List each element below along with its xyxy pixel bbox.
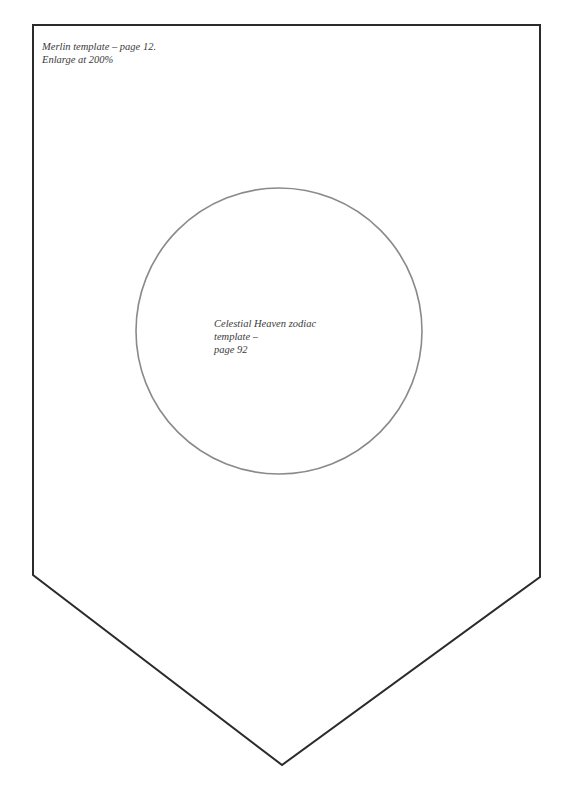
circle-note-line-1: Celestial Heaven zodiac template –: [214, 317, 354, 343]
note-line-2: Enlarge at 200%: [42, 53, 156, 66]
banner-outline: [33, 25, 540, 765]
circle-reference-note: Celestial Heaven zodiac template – page …: [214, 317, 354, 356]
circle-note-line-2: page 92: [214, 343, 354, 356]
note-line-1: Merlin template – page 12.: [42, 40, 156, 53]
banner-template-drawing: [0, 0, 572, 792]
template-instruction-note: Merlin template – page 12. Enlarge at 20…: [42, 40, 156, 66]
template-page: Merlin template – page 12. Enlarge at 20…: [0, 0, 572, 792]
